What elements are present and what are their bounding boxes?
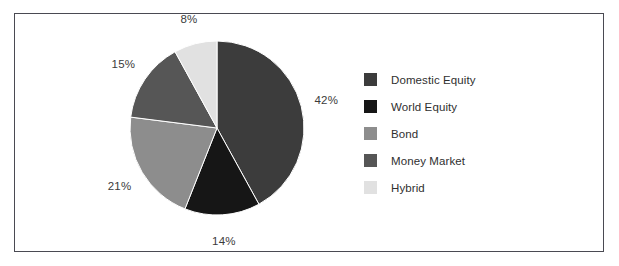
legend-item[interactable]: Bond (364, 121, 589, 146)
pie-svg (15, 14, 375, 253)
chart-legend: Domestic EquityWorld EquityBondMoney Mar… (364, 67, 589, 202)
slice-value-label: 21% (108, 180, 132, 192)
legend-item-label: World Equity (391, 101, 457, 113)
legend-swatch-icon (364, 181, 377, 194)
legend-item[interactable]: Money Market (364, 148, 589, 173)
legend-item[interactable]: World Equity (364, 94, 589, 119)
legend-swatch-icon (364, 127, 377, 140)
pie-chart-figure: 42%14%21%15%8% Domestic EquityWorld Equi… (0, 0, 619, 266)
slice-value-label: 8% (180, 13, 197, 25)
legend-swatch-icon (364, 100, 377, 113)
slice-value-label: 15% (112, 58, 136, 70)
chart-frame: 42%14%21%15%8% Domestic EquityWorld Equi… (14, 13, 604, 252)
legend-item-label: Hybrid (391, 182, 425, 194)
legend-item-label: Domestic Equity (391, 74, 476, 86)
legend-item-label: Bond (391, 128, 418, 140)
legend-swatch-icon (364, 154, 377, 167)
legend-item-label: Money Market (391, 155, 465, 167)
legend-swatch-icon (364, 73, 377, 86)
slice-value-label: 42% (314, 94, 338, 106)
slice-value-label: 14% (212, 235, 236, 247)
legend-item[interactable]: Domestic Equity (364, 67, 589, 92)
legend-item[interactable]: Hybrid (364, 175, 589, 200)
pie-plot-area: 42%14%21%15%8% (15, 14, 375, 253)
